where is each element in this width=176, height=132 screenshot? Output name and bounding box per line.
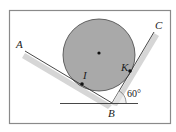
label-k: K xyxy=(120,61,129,73)
label-a: A xyxy=(15,38,23,50)
contact-point-i xyxy=(80,82,84,86)
cylinder-center xyxy=(97,51,100,54)
contact-point-k xyxy=(128,69,132,73)
diagram-canvas: A B C I K 60° xyxy=(0,0,176,132)
label-c: C xyxy=(155,19,163,31)
angle-label: 60° xyxy=(127,88,141,99)
label-b: B xyxy=(108,107,115,119)
